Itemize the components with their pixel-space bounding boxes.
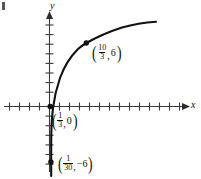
point-marker-lower <box>48 159 53 164</box>
point-marker-upper <box>84 40 89 45</box>
open-paren: ( <box>52 113 57 129</box>
x-axis-arrowhead <box>182 103 190 110</box>
fraction-numerator: 10 <box>97 44 107 52</box>
coordinate-y-value: 0 <box>67 116 72 126</box>
coordinate-y-value: 6 <box>111 48 116 58</box>
point-label-x-intercept: ( 1 3 , 0 ) <box>51 112 78 130</box>
open-paren: ( <box>58 156 63 172</box>
close-paren: ) <box>88 156 93 172</box>
fraction-denominator: 30 <box>63 163 73 172</box>
point-label-lower: ( 1 30 , −6 ) <box>57 155 94 173</box>
coordinate-y-value: −6 <box>77 159 88 169</box>
label-comma: , <box>73 162 76 173</box>
point-label-upper: ( 10 3 , 6 ) <box>91 44 122 62</box>
coordinate-plane <box>0 0 201 179</box>
close-paren: ) <box>117 45 122 61</box>
y-axis-arrowhead <box>46 11 53 19</box>
fraction-denominator: 3 <box>99 52 105 61</box>
graph-figure: y x ( 10 3 , 6 ) ( 1 3 , 0 ) ( 1 30 , −6… <box>0 0 201 179</box>
label-comma: , <box>63 119 66 130</box>
fraction-ten-thirds: 10 3 <box>97 44 107 62</box>
y-axis-label: y <box>50 1 54 11</box>
fraction-one-thirtieth: 1 30 <box>63 155 73 173</box>
label-comma: , <box>107 51 110 62</box>
open-paren: ( <box>92 45 97 61</box>
x-axis-label: x <box>191 100 195 110</box>
point-marker-x-intercept <box>48 104 53 109</box>
close-paren: ) <box>73 113 78 129</box>
fraction-numerator: 1 <box>65 155 71 163</box>
